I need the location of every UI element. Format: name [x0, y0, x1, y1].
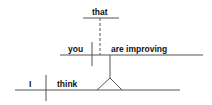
word-think: think [57, 79, 78, 89]
word-that: that [92, 7, 108, 17]
sentence-diagram: that you are improving I think [0, 0, 212, 105]
pedestal [97, 78, 122, 90]
word-i: I [29, 79, 31, 89]
words-are-improving: are improving [111, 44, 167, 54]
word-you: you [68, 44, 83, 54]
